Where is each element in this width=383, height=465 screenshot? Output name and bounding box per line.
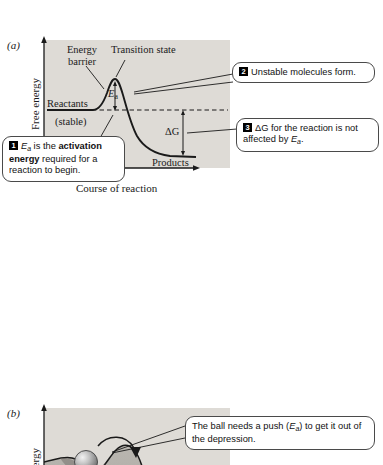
callout-2-text: Unstable molecules form.: [251, 67, 356, 77]
delta-g-label: ΔG: [165, 126, 179, 137]
energy-barrier-leader: [86, 66, 104, 89]
callout-3[interactable]: 3ΔG for the reaction is not affected by …: [236, 118, 379, 152]
callout-2-leader-bottom: [134, 82, 233, 94]
transition-state-label: Transition state: [111, 44, 176, 55]
figure-activation-energy: (a) Free energy: [0, 0, 383, 465]
callout-1-badge: 1: [9, 141, 18, 150]
callout-1[interactable]: 1Ea is the activation energy required fo…: [2, 136, 125, 182]
energy-barrier-label-line1: Energy: [67, 44, 97, 55]
panel-a-y-arrowhead: [41, 36, 47, 43]
callout-1-leader: [100, 115, 113, 138]
callout-2[interactable]: 2Unstable molecules form.: [232, 62, 375, 83]
products-label: Products: [152, 157, 189, 168]
panel-a-x-axis-label: Course of reaction: [76, 182, 157, 194]
callout-2-leader-top: [134, 74, 233, 92]
reactants-label: Reactants: [47, 98, 88, 109]
delta-g-arrowhead-down: [181, 151, 185, 156]
panel-c: (c) Free energy: [0, 345, 383, 465]
energy-barrier-label: Energy barrier: [60, 44, 104, 67]
ea-subscript: a: [114, 92, 117, 101]
delta-g-arrowhead-up: [181, 110, 185, 115]
panel-a-x-arrowhead: [193, 165, 200, 171]
callout-2-badge: 2: [239, 67, 248, 76]
callout-3-leader: [187, 129, 237, 133]
transition-state-leader: [116, 60, 125, 77]
ea-label: Ea: [108, 88, 118, 102]
energy-barrier-label-line2: barrier: [68, 56, 96, 67]
callout-3-badge: 3: [243, 123, 252, 132]
stable-label: (stable): [55, 116, 87, 127]
panel-b: (b) Free energy: [0, 200, 383, 345]
ea-arrowhead-up: [113, 81, 117, 86]
panel-a: (a) Free energy: [0, 0, 383, 200]
